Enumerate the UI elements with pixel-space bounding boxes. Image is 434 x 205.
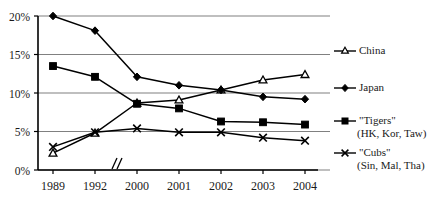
series-marker-1-6 [301,95,308,103]
legend-label-japan: Japan [357,81,384,94]
series-marker-2-3 [176,105,183,112]
series-marker-2-2 [134,100,141,107]
chart-figure: 0%5%10%15%20%198919922000200120022003200… [0,0,434,205]
legend-item-tigers[interactable]: "Tigers" (HK, Kor, Taw) [333,114,426,139]
x-axis-tick-label: 2003 [251,179,275,193]
x-axis-tick-label: 2001 [167,179,191,193]
series-marker-1-5 [259,93,266,101]
chart-legend: China Japan "Tigers" (HK, Kor, Taw) [333,0,434,205]
legend-marker-triangle-open-icon [333,45,357,57]
y-axis-tick-label: 5% [15,126,31,138]
legend-sublabel-cubs: (Sin, Mal, Tha) [357,159,425,172]
legend-item-cubs[interactable]: "Cubs" (Sin, Mal, Tha) [333,146,425,171]
legend-marker-square-filled-icon [333,115,357,127]
series-marker-2-5 [260,119,267,126]
series-marker-1-3 [175,82,182,90]
legend-label-cubs: "Cubs" [357,146,425,159]
legend-item-japan[interactable]: Japan [333,81,384,94]
y-axis-tick-label: 20% [9,11,31,23]
x-axis-tick-label: 2000 [125,179,149,193]
legend-label-tigers: "Tigers" [357,114,426,127]
series-marker-2-1 [92,73,99,80]
x-axis-tick-label: 1989 [41,179,65,193]
legend-label-china: China [357,44,385,57]
series-marker-2-6 [302,121,309,128]
legend-marker-x-cross-icon [333,147,357,159]
legend-marker-diamond-filled-icon [333,82,357,94]
legend-item-china[interactable]: China [333,44,385,57]
x-axis-tick-label: 1992 [83,179,107,193]
series-marker-1-0 [49,12,56,20]
x-axis-break-marker [112,158,122,169]
x-axis-tick-label: 2004 [293,179,317,193]
y-axis-tick-label: 10% [9,88,31,100]
series-marker-0-6 [301,71,309,78]
series-marker-2-4 [218,118,225,125]
y-axis-tick-label: 0% [15,165,31,177]
legend-sublabel-tigers: (HK, Kor, Taw) [357,127,426,140]
y-axis-tick-label: 15% [9,49,31,61]
x-axis-tick-label: 2002 [209,179,233,193]
series-marker-2-0 [50,63,57,70]
